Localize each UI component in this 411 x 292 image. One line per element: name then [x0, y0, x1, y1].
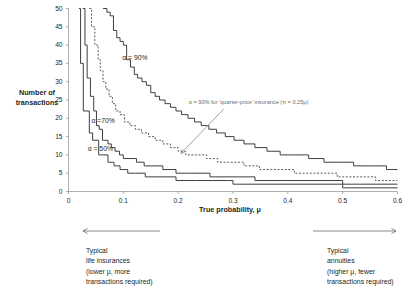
y-tick-label: 15	[47, 133, 63, 140]
y-tick-label: 25	[47, 96, 63, 103]
footnote-line: annuities	[327, 256, 394, 266]
series-label-0: α = 50%	[88, 145, 113, 152]
x-tick-label: 0.1	[113, 197, 133, 204]
series-curve-1	[83, 9, 398, 185]
x-axis-title: True probability, μ	[150, 205, 310, 214]
x-tick-label: 0.5	[333, 197, 353, 204]
callout-annotation-text: α = 90% for 'quarter-price' insurance (π…	[189, 99, 309, 105]
footnote-line: Typical	[86, 246, 153, 256]
footnote-line: (higher μ, fewer	[327, 267, 394, 277]
series-curve-3	[103, 9, 397, 170]
y-tick-label: 0	[47, 188, 63, 195]
footnote-line: transactions required)	[327, 277, 394, 287]
callout-arrow-line	[181, 109, 224, 153]
y-tick-label: 35	[47, 59, 63, 66]
chart-figure: Number of transactions True probability,…	[0, 0, 411, 292]
series-label-1: α =70%	[92, 117, 115, 124]
footnote-left-text: Typicallife insurances(lower μ, moretran…	[86, 246, 153, 288]
y-tick-label: 45	[47, 23, 63, 30]
y-tick-label: 40	[47, 41, 63, 48]
annotation-layer	[181, 109, 224, 153]
y-tick-label: 50	[47, 5, 63, 12]
footnote-line: Typical	[327, 246, 394, 256]
y-tick-label: 10	[47, 151, 63, 158]
y-tick-label: 20	[47, 114, 63, 121]
footnote-line: (lower μ, more	[86, 267, 153, 277]
x-tick-label: 0.3	[223, 197, 243, 204]
series-label-3: α = 90%	[122, 54, 147, 61]
footnote-line: life insurances	[86, 256, 153, 266]
series-curve-2	[89, 9, 397, 181]
footnote-arrows-layer	[83, 228, 396, 233]
x-tick-label: 0.2	[168, 197, 188, 204]
x-tick-label: 0.6	[388, 197, 408, 204]
footnote-line: transactions required)	[86, 277, 153, 287]
footnote-right-text: Typicalannuities(higher μ, fewertransact…	[327, 246, 394, 288]
x-tick-label: 0	[59, 197, 79, 204]
y-tick-label: 5	[47, 169, 63, 176]
x-tick-label: 0.4	[278, 197, 298, 204]
y-tick-label: 30	[47, 78, 63, 85]
